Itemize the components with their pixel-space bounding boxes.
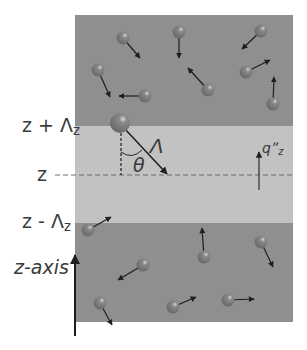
label-z-axis: z-axis xyxy=(14,258,69,277)
particle-icon xyxy=(222,294,235,307)
particle-icon xyxy=(202,84,215,97)
particle-icon xyxy=(255,25,268,38)
big-particle-icon xyxy=(110,113,130,133)
particle-icon xyxy=(267,98,280,111)
particle-icon xyxy=(240,66,253,79)
particle-icon xyxy=(173,26,186,39)
particle-icon xyxy=(198,251,211,264)
particle-icon xyxy=(117,32,130,45)
label-z: z xyxy=(37,165,47,184)
label-heat-flux: qˮz xyxy=(262,141,283,157)
particle-icon xyxy=(137,259,150,272)
label-theta: θ xyxy=(133,156,145,175)
label-mean-free-path: Λ xyxy=(150,136,164,156)
label-z-minus-lambda: z - Λz xyxy=(22,212,71,234)
label-z-plus-lambda: z + Λz xyxy=(22,116,80,138)
particle-icon xyxy=(255,236,268,249)
particle-icon xyxy=(92,64,105,77)
particle-icon xyxy=(94,297,107,310)
particle-icon xyxy=(167,301,180,314)
particle-icon xyxy=(82,224,95,237)
particle-icon xyxy=(139,90,152,103)
